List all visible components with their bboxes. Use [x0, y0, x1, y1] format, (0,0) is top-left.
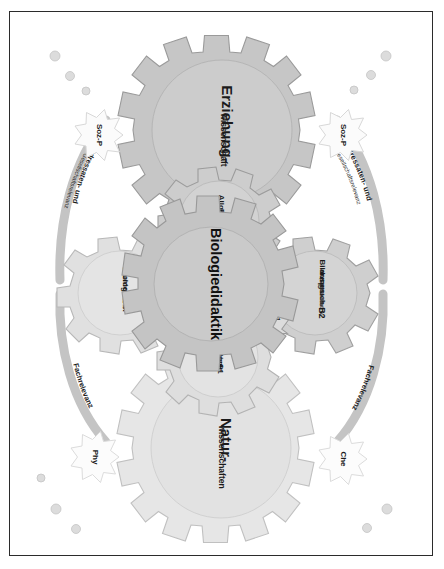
gear-sublabel-erziehungswissenschaft: wissenschaft	[219, 112, 229, 167]
dot-icon	[66, 72, 75, 81]
dot-icon	[37, 474, 45, 482]
gear-diagram: Adressaten- und Gesellschaftsrelevanz Ad…	[10, 12, 433, 555]
dot-icon	[72, 525, 81, 534]
dot-icon	[51, 504, 61, 514]
figure-frame: Adressaten- und Gesellschaftsrelevanz Ad…	[9, 11, 433, 556]
dot-icon	[82, 87, 90, 95]
satellite-gear-physik[interactable]: Phy	[71, 432, 119, 483]
dot-icon	[50, 51, 60, 61]
diagram-rotation-wrapper: Adressaten- und Gesellschaftsrelevanz Ad…	[10, 12, 433, 555]
dot-icon	[350, 86, 358, 94]
gear-label-biologiedidaktik: Biologiedidaktik	[208, 228, 224, 341]
satellite-label-soz-p-lower: Soz-P	[95, 124, 104, 147]
dot-icon	[363, 524, 372, 533]
satellite-label-soz-p-upper: Soz-P	[339, 124, 348, 147]
gear-biologiedidaktik[interactable]: Biologiedidaktik	[122, 196, 298, 371]
satellite-gear-chemie[interactable]: Che	[319, 434, 367, 485]
gear-sublabel-naturwissenschaften: wissenschaften	[217, 424, 227, 488]
dot-icon	[381, 51, 391, 61]
dot-icon	[367, 71, 376, 80]
gear-code-bildungsanspruch: B2	[317, 308, 327, 319]
satellite-label-chemie: Che	[339, 451, 348, 467]
satellite-label-physik: Phy	[91, 450, 100, 465]
dot-icon	[382, 504, 392, 514]
